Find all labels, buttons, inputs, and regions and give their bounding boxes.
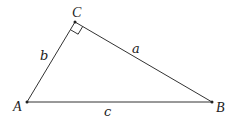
side-label-b: b <box>40 48 48 63</box>
right-triangle-diagram: C A B b a c <box>0 0 236 121</box>
vertex-label-a: A <box>12 99 22 114</box>
side-label-a: a <box>132 41 140 56</box>
vertex-label-b: B <box>216 100 225 115</box>
vertex-c-dot <box>74 21 77 24</box>
side-a <box>75 22 212 102</box>
side-label-c: c <box>104 104 112 119</box>
right-angle-marker <box>70 27 82 35</box>
vertex-a-dot <box>26 101 29 104</box>
side-b <box>27 22 75 102</box>
vertex-b-dot <box>211 101 214 104</box>
vertex-label-c: C <box>72 5 82 20</box>
